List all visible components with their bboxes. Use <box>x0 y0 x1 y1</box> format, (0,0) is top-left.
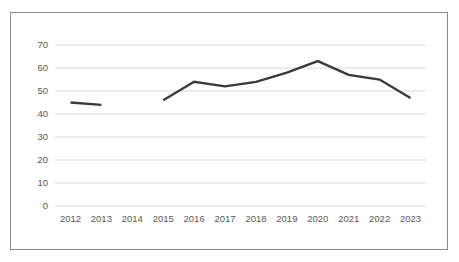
y-axis-tick-label: 10 <box>37 177 48 188</box>
x-axis-tick-label: 2020 <box>307 213 328 224</box>
line-chart: 0102030405060702012201320142015201620172… <box>0 0 459 262</box>
x-axis-tick-label: 2015 <box>153 213 174 224</box>
y-axis-tick-label: 30 <box>37 131 48 142</box>
x-axis-tick-label: 2016 <box>184 213 205 224</box>
y-axis-tick-label: 0 <box>43 200 48 211</box>
y-axis-tick-label: 60 <box>37 62 48 73</box>
x-axis-tick-label: 2021 <box>338 213 359 224</box>
y-axis-tick-label: 70 <box>37 39 48 50</box>
x-axis-tick-label: 2018 <box>245 213 266 224</box>
x-axis-tick-label: 2012 <box>60 213 81 224</box>
x-axis-tick-label: 2013 <box>91 213 112 224</box>
chart-container: 0102030405060702012201320142015201620172… <box>0 0 459 262</box>
x-axis-tick-label: 2019 <box>276 213 297 224</box>
x-axis-tick-label: 2022 <box>369 213 390 224</box>
y-axis-tick-label: 50 <box>37 85 48 96</box>
x-axis-tick-label: 2023 <box>400 213 421 224</box>
x-axis-tick-label: 2017 <box>214 213 235 224</box>
x-axis-tick-label: 2014 <box>122 213 143 224</box>
y-axis-tick-label: 20 <box>37 154 48 165</box>
y-axis-tick-label: 40 <box>37 108 48 119</box>
